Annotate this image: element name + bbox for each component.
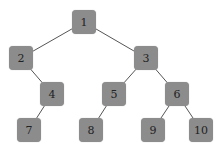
node-1: 1 (72, 10, 96, 34)
node-8: 8 (79, 118, 103, 142)
node-2: 2 (9, 46, 33, 70)
node-4: 4 (40, 82, 64, 106)
node-9: 9 (141, 118, 165, 142)
node-6: 6 (165, 82, 189, 106)
node-5: 5 (102, 82, 126, 106)
node-3: 3 (134, 46, 158, 70)
node-7: 7 (17, 118, 41, 142)
tree-diagram: 1 2 3 4 5 6 7 8 9 10 (0, 0, 219, 150)
node-10: 10 (189, 118, 213, 142)
